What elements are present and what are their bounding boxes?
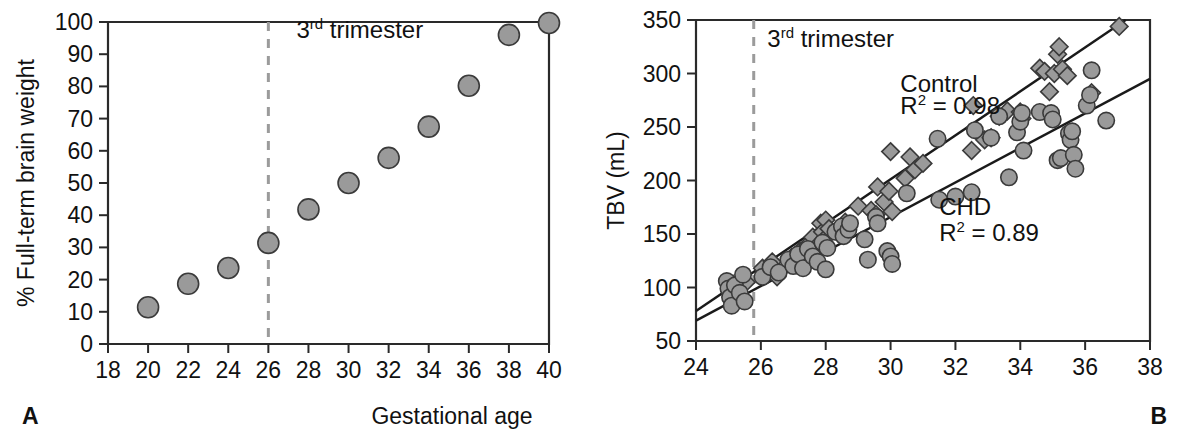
x-tick-label: 34 [416,357,442,383]
data-point-circle [258,232,279,253]
x-tick-label: 26 [748,354,774,380]
y-tick-label: 30 [67,234,93,260]
data-point-diamond [882,143,900,161]
series-full-term-brain-weight [138,12,560,317]
data-point-circle [1064,123,1080,139]
panel-letter-a: A [22,403,39,429]
y-tick-label: 300 [643,61,681,87]
data-point-circle [1098,112,1114,128]
y-tick-label: 20 [67,267,93,293]
data-point-circle [735,266,751,282]
data-point-circle [178,273,199,294]
plot-frame [696,20,1150,341]
x-tick-label: 38 [1137,354,1163,380]
data-point-circle [218,258,239,279]
figure-container: 1820222426283032343638400102030405060708… [0,0,1189,434]
data-point-circle [1082,87,1098,103]
y-tick-label: 150 [643,221,681,247]
x-tick-label: 24 [215,357,241,383]
y-tick-label: 80 [67,73,93,99]
data-point-circle [983,130,999,146]
y-tick-label: 0 [80,331,93,357]
data-point-circle [819,240,835,256]
y-tick-label: 250 [643,114,681,140]
chd-label: CHD [939,193,991,220]
data-point-circle [298,199,319,220]
data-point-circle [458,75,479,96]
y-tick-label: 90 [67,41,93,67]
chd-r2: R2 = 0.89 [939,218,1039,246]
y-tick-label: 100 [643,275,681,301]
data-point-diamond [1041,83,1059,101]
y-tick-label: 200 [643,168,681,194]
plot-frame [108,22,549,344]
x-tick-label: 36 [1072,354,1098,380]
data-point-circle [338,173,359,194]
data-point-circle [1045,111,1061,127]
panel-b-chart: 242628303234363850100150200250300350TBV … [594,0,1189,434]
data-point-diamond [963,142,981,160]
x-tick-label: 28 [296,357,322,383]
y-tick-label: 50 [67,170,93,196]
x-tick-label: 40 [536,357,562,383]
data-point-circle [539,12,560,33]
panel-a-chart: 1820222426283032343638400102030405060708… [0,0,594,434]
y-axis: 50100150200250300350 [643,7,696,354]
x-tick-label: 18 [95,357,121,383]
x-tick-label: 28 [813,354,839,380]
x-axis-title: Gestational age [371,403,532,429]
x-tick-label: 26 [256,357,282,383]
x-tick-label: 20 [135,357,161,383]
data-point-circle [1014,105,1030,121]
x-axis: 182022242628303234363840 [95,344,562,383]
data-point-circle [1067,161,1083,177]
y-tick-label: 50 [655,328,681,354]
data-point-circle [498,24,519,45]
y-tick-label: 350 [643,7,681,33]
x-tick-label: 30 [336,357,362,383]
x-tick-label: 36 [456,357,482,383]
x-tick-label: 34 [1007,354,1033,380]
data-point-circle [818,261,834,277]
x-axis: 2426283032343638 [683,341,1163,380]
trimester-label: 3rd trimester [767,24,894,52]
data-point-circle [138,297,159,318]
data-point-circle [378,147,399,168]
y-tick-label: 40 [67,202,93,228]
data-point-circle [967,122,983,138]
y-axis: 0102030405060708090100 [55,9,108,357]
data-point-circle [856,231,872,247]
data-point-circle [1015,142,1031,158]
data-point-circle [860,251,876,267]
data-point-circle [899,185,915,201]
x-tick-label: 30 [878,354,904,380]
y-axis-title: % Full-term brain weight [13,58,39,307]
x-tick-label: 32 [943,354,969,380]
x-tick-label: 38 [496,357,522,383]
y-tick-label: 100 [55,9,93,35]
y-tick-label: 10 [67,299,93,325]
data-point-circle [869,215,885,231]
x-tick-label: 22 [175,357,201,383]
data-point-circle [736,293,752,309]
y-tick-label: 70 [67,106,93,132]
control-r2: R2 = 0.98 [900,91,1000,119]
y-tick-label: 60 [67,138,93,164]
data-point-circle [884,256,900,272]
data-point-circle [1001,169,1017,185]
trimester-label: 3rd trimester [296,15,423,43]
panel-letter-b: B [1150,403,1167,429]
data-point-circle [929,131,945,147]
x-tick-label: 24 [683,354,709,380]
y-axis-title: TBV (mL) [603,131,629,229]
data-point-circle [418,116,439,137]
x-tick-label: 32 [376,357,402,383]
data-point-circle [842,215,858,231]
data-point-circle [1083,62,1099,78]
